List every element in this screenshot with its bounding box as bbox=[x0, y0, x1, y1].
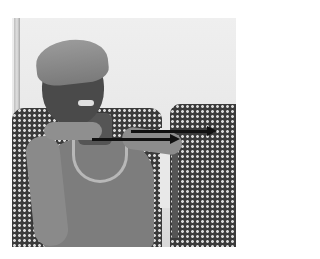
chair-right bbox=[170, 104, 236, 247]
person-mouth bbox=[78, 100, 94, 106]
lower-arrow-icon bbox=[92, 138, 172, 141]
upper-arrow-icon bbox=[131, 130, 209, 133]
